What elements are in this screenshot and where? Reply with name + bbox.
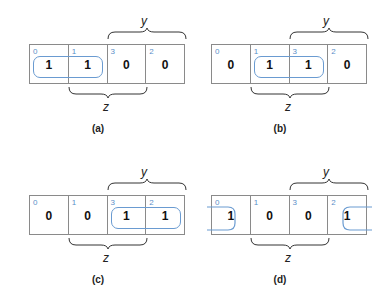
kmap-cell-0: 00 [30,196,68,234]
kmap-cell-2: 20 [327,45,366,83]
cell-index: 2 [149,198,153,207]
cell-index: 2 [331,198,335,207]
z-brace [68,237,148,249]
cell-index: 1 [254,47,258,56]
y-label: y [323,165,329,179]
cell-value: 0 [30,209,68,223]
kmap-panel-c: y 00 10 31 21 z (c) [0,151,196,302]
cell-index: 1 [72,198,76,207]
cell-index: 3 [111,47,115,56]
kmap-cell-3: 30 [289,196,328,234]
group-loop [111,207,181,229]
panel-caption: (b) [182,123,378,134]
cell-value: 0 [290,209,328,223]
z-label: z [103,251,109,265]
kmap-cell-2: 20 [145,45,184,83]
cell-index: 3 [293,47,297,56]
kmap-panel-a: y 01 11 30 20 z (a) [0,0,196,151]
y-brace [107,28,187,40]
z-brace [250,237,330,249]
kmap-cell-0: 00 [212,45,250,83]
kmap-cell-1: 10 [250,196,289,234]
panel-caption: (c) [0,274,196,285]
z-label: z [285,100,291,114]
cell-value: 0 [69,209,107,223]
wrap-loop-right [341,206,373,232]
cell-value: 0 [212,58,250,72]
kmap-panel-d: y 01 10 30 21 z (d) [182,151,378,302]
y-brace [289,28,369,40]
panel-caption: (a) [0,123,196,134]
kmap-cell-3: 30 [107,45,146,83]
z-label: z [285,251,291,265]
panel-caption: (d) [182,274,378,285]
group-loop [254,56,324,78]
cell-index: 1 [72,47,76,56]
z-label: z [103,100,109,114]
cell-index: 3 [293,198,297,207]
cell-index: 2 [149,47,153,56]
wrap-loop-left [207,206,237,232]
y-label: y [323,14,329,28]
cell-index: 0 [33,198,37,207]
y-brace [289,179,369,191]
group-loop [33,56,103,78]
cell-index: 0 [215,47,219,56]
y-label: y [141,14,147,28]
cell-index: 2 [331,47,335,56]
y-brace [107,179,187,191]
kmap-panel-b: y 00 11 31 20 z (b) [182,0,378,151]
cell-value: 0 [328,58,366,72]
cell-index: 0 [33,47,37,56]
cell-index: 3 [111,198,115,207]
z-brace [68,86,148,98]
cell-value: 0 [146,58,184,72]
z-brace [250,86,330,98]
kmap-cell-1: 10 [68,196,107,234]
cell-value: 0 [251,209,289,223]
y-label: y [141,165,147,179]
cell-value: 0 [108,58,146,72]
cell-index: 1 [254,198,258,207]
